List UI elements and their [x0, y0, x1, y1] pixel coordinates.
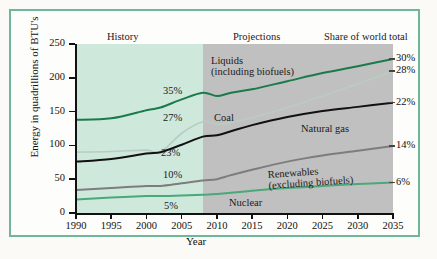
- y-axis-line: [75, 44, 77, 214]
- x-tick-label: 2005: [165, 220, 199, 231]
- series-label-liquids-line2: (including biofuels): [211, 66, 294, 77]
- band-label-history: History: [107, 31, 139, 42]
- share-annotation-liquids: 35%: [163, 85, 182, 96]
- right-share-label: 30%: [396, 52, 415, 63]
- right-share-label: 22%: [396, 96, 415, 107]
- share-of-world-total-header: Share of world total: [324, 31, 408, 42]
- y-tick-label: 200: [35, 71, 65, 82]
- right-tick: [389, 102, 395, 103]
- x-tick-label: 2030: [341, 220, 375, 231]
- share-annotation-coal: 27%: [163, 112, 182, 123]
- share-annotation-natural-gas: 23%: [161, 147, 180, 158]
- x-tick-label: 2015: [235, 220, 269, 231]
- right-tick: [389, 70, 395, 71]
- y-tick-label: 50: [35, 172, 65, 183]
- y-tick: [69, 111, 75, 113]
- y-tick: [69, 77, 75, 79]
- y-tick: [69, 145, 75, 147]
- x-tick: [146, 214, 148, 219]
- x-tick: [181, 214, 183, 219]
- x-tick: [322, 214, 324, 219]
- x-tick: [357, 214, 359, 219]
- y-tick: [69, 212, 75, 214]
- series-label-coal: Coal: [214, 112, 234, 123]
- y-tick-label: 150: [35, 105, 65, 116]
- x-tick: [287, 214, 289, 219]
- share-annotation-renewables: 10%: [163, 169, 182, 180]
- right-share-label: 6%: [396, 176, 410, 187]
- chart-figure: History Projections Share of world total…: [9, 9, 420, 237]
- series-label-liquids: Liquids(including biofuels): [211, 55, 294, 77]
- x-tick: [75, 214, 77, 219]
- x-axis-line: [75, 213, 394, 215]
- x-tick-label: 1990: [59, 220, 93, 231]
- x-tick-label: 2010: [200, 220, 234, 231]
- x-tick: [110, 214, 112, 219]
- y-tick-label: 250: [35, 37, 65, 48]
- x-tick-label: 2020: [270, 220, 304, 231]
- x-tick-label: 2025: [306, 220, 340, 231]
- x-axis-label: Year: [186, 235, 206, 247]
- right-share-label: 14%: [396, 139, 415, 150]
- right-tick: [389, 58, 395, 59]
- right-tick: [389, 145, 395, 146]
- band-label-projections: Projections: [233, 31, 280, 42]
- series-line-1: [76, 71, 393, 153]
- x-tick: [392, 214, 394, 219]
- x-tick-label: 2035: [376, 220, 410, 231]
- y-tick-label: 100: [35, 138, 65, 149]
- x-tick-label: 2000: [129, 220, 163, 231]
- share-annotation-nuclear: 5%: [164, 200, 178, 211]
- series-label-natural-gas: Natural gas: [301, 123, 349, 134]
- x-tick: [216, 214, 218, 219]
- x-tick: [251, 214, 253, 219]
- y-tick-label: 0: [35, 206, 65, 217]
- series-label-liquids-line1: Liquids: [211, 55, 294, 66]
- y-tick: [69, 178, 75, 180]
- right-tick: [389, 182, 395, 183]
- series-label-nuclear: Nuclear: [229, 197, 262, 208]
- right-share-label: 28%: [396, 64, 415, 75]
- y-tick: [69, 43, 75, 45]
- x-tick-label: 1995: [94, 220, 128, 231]
